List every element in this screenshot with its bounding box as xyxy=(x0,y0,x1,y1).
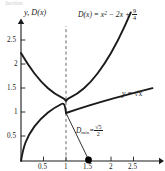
dmin-radicand: 5 xyxy=(98,124,101,130)
xtick-label-1: 1 xyxy=(64,163,68,171)
xtick-label-2: 1.5 xyxy=(83,163,92,171)
xtick-label-0: 0.5 xyxy=(38,163,47,171)
xtick-label-3: 2 xyxy=(109,163,113,171)
dmin-fraction-denominator: 2 xyxy=(94,131,102,137)
parabola-eq-lhs: D(x) = x xyxy=(78,10,104,19)
parabola-eq-fraction: 94 xyxy=(132,8,137,22)
sqrt-equation-label: y = √x xyxy=(122,89,142,98)
radicand: x xyxy=(138,89,142,98)
dmin-subscript: min xyxy=(81,130,89,135)
ytick-label-1: 1 xyxy=(14,108,18,116)
ytick-label-3: 2 xyxy=(14,60,18,68)
curve-parabola xyxy=(21,12,131,101)
parabola-eq-mid: − 2x + xyxy=(107,10,132,19)
ytick-label-2: 1.5 xyxy=(7,84,16,92)
y-axis xyxy=(18,19,26,162)
ytick-label-4: 2.5 xyxy=(7,36,16,44)
xtick-label-4: 2.5 xyxy=(128,163,137,171)
dmin-fraction-numerator: √5 xyxy=(94,124,102,131)
sqrt-eq-lhs: y = xyxy=(122,89,134,98)
plot-svg xyxy=(0,0,165,171)
dmin-annotation: Dmin=√52 xyxy=(76,124,103,137)
parabola-equation-label: D(x) = x2 − 2x + 94 xyxy=(78,8,137,22)
figure-canvas: Section xyxy=(0,0,165,171)
ytick-label-0: 0.5 xyxy=(7,132,16,140)
y-axis-label: y, D(x) xyxy=(24,8,46,17)
dmin-fraction: √52 xyxy=(94,124,102,137)
fraction-denominator: 4 xyxy=(132,15,137,21)
